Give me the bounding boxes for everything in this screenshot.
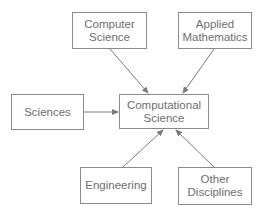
node-label-line: Science: [144, 112, 185, 125]
arrow-computer-science-to-computational-science: [110, 49, 148, 93]
arrow-other-disciplines-to-computational-science: [176, 130, 214, 167]
node-label-line: Computer: [84, 18, 135, 31]
node-label-line: Sciences: [24, 106, 71, 119]
node-label-line: Engineering: [85, 179, 146, 192]
node-computer-science: Computer Science: [72, 12, 147, 49]
node-computational-science: Computational Science: [119, 94, 209, 129]
arrow-engineering-to-computational-science: [123, 130, 163, 167]
node-label-line: Other: [201, 173, 230, 186]
node-label-line: Science: [89, 31, 130, 44]
node-sciences: Sciences: [11, 94, 84, 130]
node-engineering: Engineering: [80, 167, 152, 204]
node-applied-mathematics: Applied Mathematics: [178, 12, 252, 49]
node-other-disciplines: Other Disciplines: [178, 167, 252, 205]
diagram-canvas: Computer Science Applied Mathematics Sci…: [0, 0, 264, 216]
node-label-line: Mathematics: [182, 31, 247, 44]
node-label-line: Computational: [127, 99, 201, 112]
node-label-line: Applied: [196, 18, 234, 31]
node-label-line: Disciplines: [188, 186, 243, 199]
arrow-applied-mathematics-to-computational-science: [183, 49, 214, 93]
